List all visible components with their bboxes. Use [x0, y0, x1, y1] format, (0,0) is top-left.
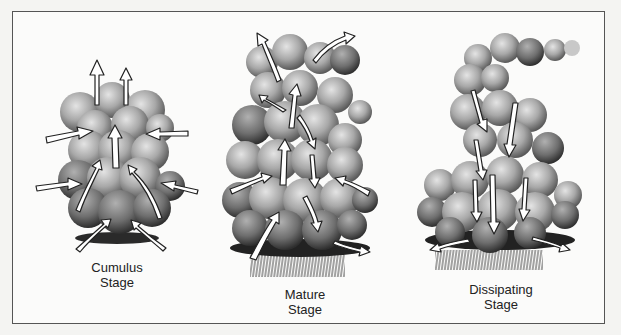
- cumulus-cloud: [58, 82, 185, 244]
- dissipating-label-line1: Dissipating: [456, 282, 546, 297]
- mature-cloud: [222, 34, 378, 277]
- mature-label-line2: Stage: [275, 302, 335, 317]
- dissipating-stage-label: Dissipating Stage: [456, 282, 546, 312]
- cumulus-stage-label: Cumulus Stage: [82, 260, 152, 290]
- mature-stage-label: Mature Stage: [275, 287, 335, 317]
- cumulus-label-line1: Cumulus: [82, 260, 152, 275]
- mature-rain-shafts: [250, 255, 345, 277]
- dissipating-label-line2: Stage: [456, 297, 546, 312]
- dissipating-cloud: [417, 33, 582, 270]
- mature-label-line1: Mature: [275, 287, 335, 302]
- cumulus-label-line2: Stage: [82, 275, 152, 290]
- dissipating-rain-shafts: [435, 250, 543, 270]
